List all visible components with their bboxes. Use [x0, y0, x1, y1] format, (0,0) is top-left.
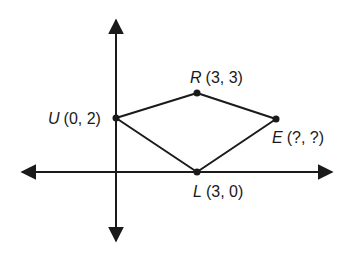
point-e	[273, 116, 280, 123]
label-l: L(3, 0)	[193, 183, 243, 200]
point-l	[194, 169, 201, 176]
label-e: E(?, ?)	[272, 129, 324, 146]
label-r: R(3, 3)	[190, 69, 243, 86]
label-u: U(0, 2)	[48, 110, 101, 127]
quadrilateral-rule	[116, 93, 276, 172]
coordinate-plane: U(0, 2) R(3, 3) E(?, ?) L(3, 0)	[0, 0, 358, 255]
point-u	[113, 115, 120, 122]
point-r	[194, 90, 201, 97]
